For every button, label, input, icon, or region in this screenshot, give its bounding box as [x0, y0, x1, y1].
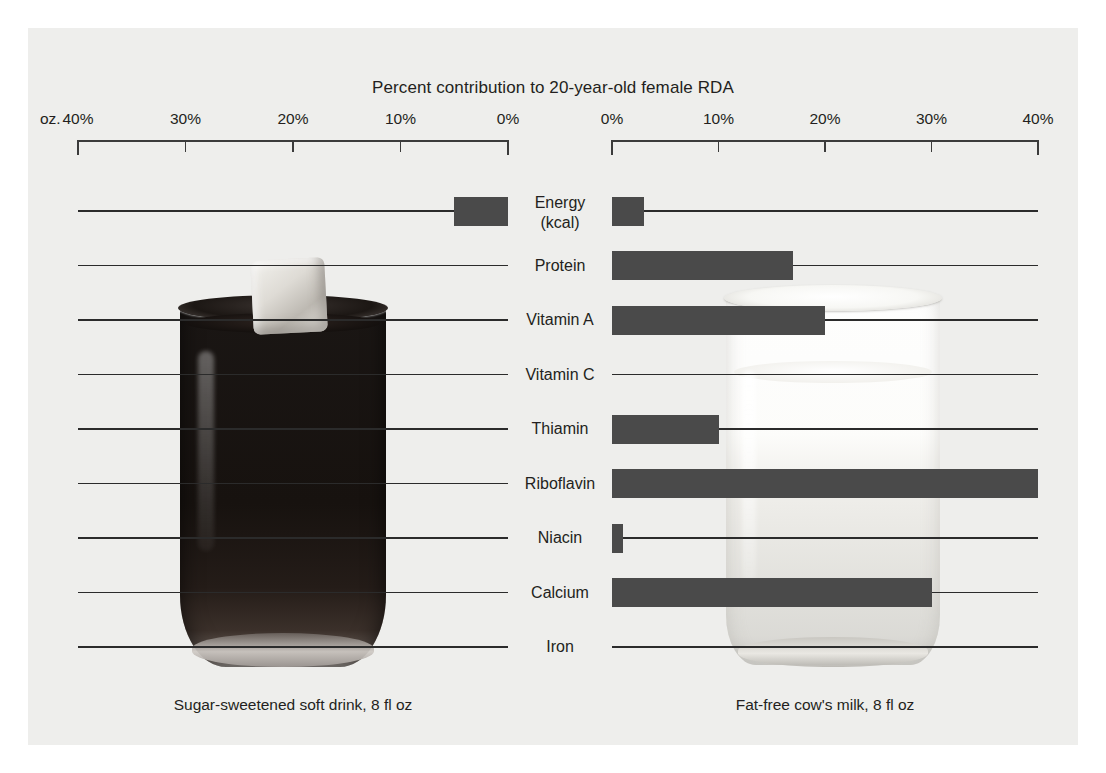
axis-tick-left-0: [507, 140, 509, 155]
axis-tick-label-right-10: 10%: [703, 110, 734, 128]
category-label-iron: Iron: [546, 637, 574, 657]
row-connector-left-vitamin-a: [78, 319, 508, 320]
category-label-line: Iron: [546, 637, 574, 657]
bar-right-energy-kcal: [612, 197, 644, 226]
axis-tick-label-left-20: 20%: [277, 110, 308, 128]
category-label-niacin: Niacin: [538, 528, 582, 548]
category-label-vitamin-a: Vitamin A: [526, 310, 593, 330]
row-connector-right-vitamin-c: [612, 374, 1038, 375]
category-label-energy-kcal: Energy(kcal): [535, 193, 586, 233]
axis-tick-label-right-20: 20%: [809, 110, 840, 128]
category-label-line: (kcal): [535, 213, 586, 233]
axis-tick-right-0: [611, 140, 613, 155]
row-connector-left-vitamin-c: [78, 374, 508, 375]
row-connector-left-protein: [78, 265, 508, 266]
category-label-line: Riboflavin: [525, 474, 595, 494]
row-connector-left-energy-kcal: [78, 210, 454, 211]
category-label-line: Calcium: [531, 583, 589, 603]
category-label-line: Vitamin C: [525, 365, 594, 385]
row-connector-left-calcium: [78, 592, 508, 593]
category-label-vitamin-c: Vitamin C: [525, 365, 594, 385]
row-connector-right-calcium: [932, 592, 1039, 593]
axis-tick-left-30: [185, 140, 187, 152]
bar-right-calcium: [612, 578, 932, 607]
axis-tick-left-20: [292, 140, 294, 152]
panel-caption-left: Sugar-sweetened soft drink, 8 fl oz: [174, 696, 413, 714]
bar-right-protein: [612, 251, 793, 280]
category-label-line: Energy: [535, 193, 586, 213]
axis-tick-left-10: [400, 140, 402, 152]
axis-tick-right-20: [824, 140, 826, 152]
bar-right-niacin: [612, 524, 623, 553]
category-label-line: Protein: [535, 256, 586, 276]
axis-tick-right-40: [1037, 140, 1039, 155]
row-connector-left-niacin: [78, 537, 508, 538]
category-label-thiamin: Thiamin: [532, 419, 589, 439]
axis-tick-label-right-30: 30%: [916, 110, 947, 128]
row-connector-right-energy-kcal: [644, 210, 1038, 211]
bar-right-vitamin-a: [612, 306, 825, 335]
row-connector-right-iron: [612, 646, 1038, 647]
axis-tick-label-left-10: 10%: [385, 110, 416, 128]
axis-tick-label-right-40: 40%: [1022, 110, 1053, 128]
category-label-protein: Protein: [535, 256, 586, 276]
category-label-line: Niacin: [538, 528, 582, 548]
axis-tick-label-left-30: 30%: [170, 110, 201, 128]
chart-title: Percent contribution to 20-year-old fema…: [28, 78, 1078, 98]
bar-right-thiamin: [612, 415, 719, 444]
category-label-line: Thiamin: [532, 419, 589, 439]
bar-left-energy-kcal: [454, 197, 508, 226]
axis-tick-left-40: [77, 140, 79, 155]
unit-label: oz.: [40, 110, 61, 128]
row-connector-right-vitamin-a: [825, 319, 1038, 320]
bar-right-riboflavin: [612, 469, 1038, 498]
row-connector-left-iron: [78, 646, 508, 647]
chart-figure: Percent contribution to 20-year-old fema…: [28, 28, 1078, 745]
row-connector-right-niacin: [623, 537, 1038, 538]
row-connector-right-thiamin: [719, 428, 1039, 429]
chart-plot-area: Percent contribution to 20-year-old fema…: [28, 28, 1078, 745]
axis-tick-label-right-0: 0%: [601, 110, 623, 128]
axis-tick-label-left-40: 40%: [62, 110, 93, 128]
axis-tick-right-10: [718, 140, 720, 152]
panel-caption-right: Fat-free cow's milk, 8 fl oz: [736, 696, 915, 714]
category-label-riboflavin: Riboflavin: [525, 474, 595, 494]
category-label-calcium: Calcium: [531, 583, 589, 603]
category-label-line: Vitamin A: [526, 310, 593, 330]
axis-tick-right-30: [931, 140, 933, 152]
row-connector-left-thiamin: [78, 428, 508, 429]
row-connector-right-protein: [793, 265, 1038, 266]
row-connector-left-riboflavin: [78, 483, 508, 484]
axis-tick-label-left-0: 0%: [497, 110, 519, 128]
